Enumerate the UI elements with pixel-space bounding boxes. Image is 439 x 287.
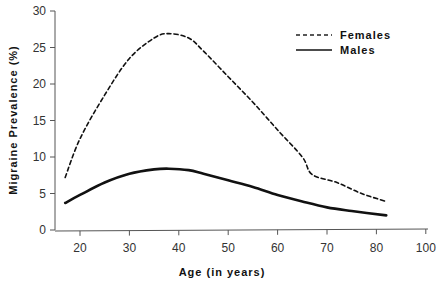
- x-tick-label: 100: [416, 241, 436, 255]
- x-tick-label: 60: [271, 241, 285, 255]
- x-tick-label: 80: [370, 241, 384, 255]
- x-tick-label: 50: [222, 241, 236, 255]
- y-tick-label: 20: [33, 77, 47, 91]
- y-tick-label: 30: [33, 4, 47, 18]
- x-tick-label: 70: [320, 241, 334, 255]
- axes: 05101520253020304050607080100: [33, 4, 436, 255]
- y-tick-label: 25: [33, 41, 47, 55]
- y-tick-label: 15: [33, 114, 47, 128]
- x-tick-label: 20: [73, 241, 87, 255]
- chart-canvas: 05101520253020304050607080100 Females Ma…: [0, 0, 439, 287]
- legend: Females Males: [296, 29, 391, 56]
- migraine-prevalence-chart: 05101520253020304050607080100 Females Ma…: [0, 0, 439, 287]
- series-line-males: [65, 169, 386, 216]
- x-tick-label: 40: [172, 241, 186, 255]
- legend-label-females: Females: [340, 29, 391, 41]
- x-axis-title: Age (in years): [179, 266, 266, 278]
- y-tick-label: 0: [39, 223, 46, 237]
- series-layer: [65, 34, 386, 216]
- y-tick-label: 5: [39, 187, 46, 201]
- x-axis-line: [55, 229, 428, 231]
- y-tick-label: 10: [33, 150, 47, 164]
- series-line-females: [65, 34, 386, 202]
- y-axis-title: Migraine Prevalence (%): [7, 45, 19, 195]
- legend-label-males: Males: [340, 44, 376, 56]
- x-tick-label: 30: [123, 241, 137, 255]
